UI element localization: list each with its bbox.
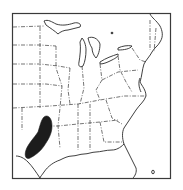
range-map <box>0 0 183 190</box>
island-dot <box>111 32 113 34</box>
